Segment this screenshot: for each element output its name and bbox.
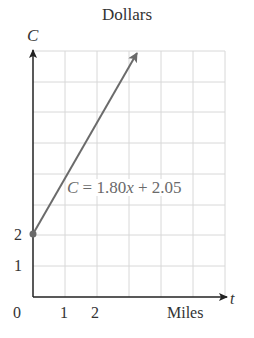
equation-mid: = 1.80 [78,178,126,197]
x-axis-label: t [230,291,234,307]
equation-label: C = 1.80x + 2.05 [66,179,183,196]
intercept-point [30,231,37,238]
x-tick-2: 2 [91,305,99,321]
origin-label: 0 [13,305,21,321]
chart-plot [0,0,254,338]
y-tick-2: 2 [14,227,22,243]
x-units-label: Miles [167,305,203,321]
equation-x: x [126,178,134,197]
grid [33,51,225,297]
x-tick-1: 1 [60,305,68,321]
equation-tail: + 2.05 [134,178,182,197]
y-tick-1: 1 [14,258,22,274]
equation-var: C [67,178,78,197]
